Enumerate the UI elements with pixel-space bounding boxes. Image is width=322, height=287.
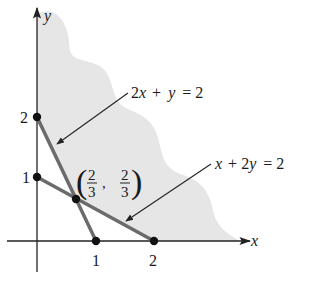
point-0-1: [33, 173, 41, 181]
point-1-0: [92, 237, 100, 245]
feasible-region: [37, 11, 240, 241]
point-0-2: [33, 113, 41, 121]
y-axis-label: y: [42, 7, 52, 25]
x-tick-2: 2: [149, 252, 157, 269]
label-x-plus-2y-eq-2: x + 2y = 2: [214, 155, 284, 173]
y-denominator: 3: [121, 184, 129, 200]
open-paren: (: [76, 163, 87, 201]
comma: ,: [102, 175, 106, 191]
y-numerator: 2: [121, 167, 129, 183]
x-axis-label: x: [250, 232, 258, 249]
label-2x-plus-y-eq-2: 2x + y = 2: [131, 84, 203, 102]
y-tick-2: 2: [20, 109, 28, 126]
x-tick-1: 1: [92, 252, 100, 269]
y-tick-1: 1: [22, 169, 30, 186]
point-2-0: [150, 237, 158, 245]
feasible-region-diagram: x y 1 2 1 2 2x + y = 2 x + 2y = 2 ( 2 3 …: [0, 0, 322, 287]
close-paren: ): [131, 163, 142, 201]
x-numerator: 2: [88, 167, 96, 183]
x-denominator: 3: [88, 184, 96, 200]
